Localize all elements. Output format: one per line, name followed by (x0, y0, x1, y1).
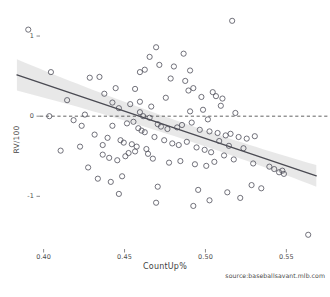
regression-trend-line (17, 75, 316, 176)
x-tick-label: 0.50 (198, 253, 213, 261)
y-tick-label: -1 (16, 192, 34, 200)
x-tick-label: 0.40 (36, 253, 51, 261)
axis-tick-marks (37, 36, 287, 252)
scatter-plot-figure: 10-1 0.400.450.500.55 RV/100 CountUp% so… (0, 0, 330, 297)
source-caption: source:baseballsavant.mlb.com (225, 272, 325, 279)
x-tick-label: 0.55 (279, 253, 294, 261)
x-axis-title: CountUp% (0, 262, 330, 271)
x-tick-label: 0.45 (117, 253, 132, 261)
y-tick-label: 1 (16, 32, 34, 40)
y-axis-title: RV/100 (12, 110, 21, 170)
